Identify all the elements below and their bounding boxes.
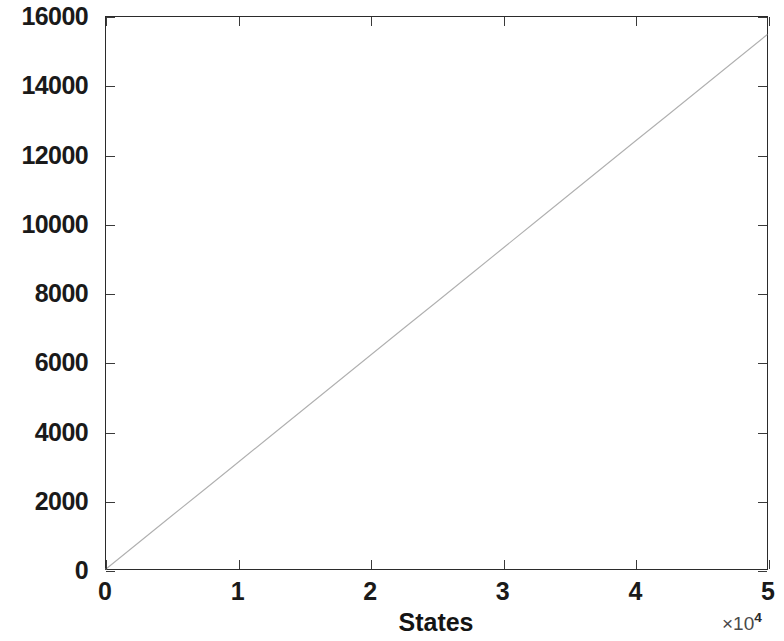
x-tick-mark xyxy=(769,560,770,569)
y-tick-label: 16000 xyxy=(21,2,88,31)
x-tick-label: 0 xyxy=(98,577,112,606)
y-tick-label: 12000 xyxy=(21,140,88,169)
y-tick-mark xyxy=(106,294,115,295)
y-tick-label: 8000 xyxy=(35,279,88,308)
y-tick-label: 14000 xyxy=(21,71,88,100)
x-tick-label: 5 xyxy=(761,577,775,606)
y-tick-mark xyxy=(106,17,115,18)
y-tick-mark xyxy=(106,502,115,503)
x-tick-mark-mirror xyxy=(106,17,107,26)
y-tick-label: 6000 xyxy=(35,348,88,377)
x-axis-exponent-label: ×104 xyxy=(722,610,762,636)
x-tick-mark-mirror xyxy=(239,17,240,26)
y-tick-mark-mirror xyxy=(758,502,767,503)
y-tick-label: 4000 xyxy=(35,417,88,446)
x-tick-mark-mirror xyxy=(636,17,637,26)
y-tick-mark-mirror xyxy=(758,571,767,572)
x-axis-title: States xyxy=(398,608,473,637)
y-tick-mark xyxy=(106,571,115,572)
x-tick-label: 2 xyxy=(363,577,377,606)
series-line-accepted-candidates xyxy=(106,35,767,569)
y-tick-mark-mirror xyxy=(758,156,767,157)
y-tick-mark xyxy=(106,363,115,364)
y-tick-label: 0 xyxy=(75,556,88,585)
figure-canvas: 0200040006000800010000120001400016000 Ac… xyxy=(0,0,784,641)
x-tick-label: 4 xyxy=(628,577,642,606)
x-tick-mark xyxy=(239,560,240,569)
x-tick-label: 3 xyxy=(496,577,510,606)
data-line-svg xyxy=(106,17,767,569)
y-tick-mark xyxy=(106,433,115,434)
y-tick-mark xyxy=(106,225,115,226)
x-tick-mark xyxy=(106,560,107,569)
x-tick-mark xyxy=(504,560,505,569)
y-tick-mark-mirror xyxy=(758,363,767,364)
x-axis-exponent-mult: ×10 xyxy=(722,613,754,634)
x-tick-mark xyxy=(636,560,637,569)
y-tick-mark xyxy=(106,86,115,87)
x-tick-mark-mirror xyxy=(769,17,770,26)
x-axis-exponent-power: 4 xyxy=(754,610,762,625)
y-tick-mark-mirror xyxy=(758,17,767,18)
y-tick-mark-mirror xyxy=(758,294,767,295)
y-tick-label-group: 0200040006000800010000120001400016000 xyxy=(0,0,96,641)
x-tick-mark-mirror xyxy=(371,17,372,26)
plot-area xyxy=(105,16,768,570)
y-tick-label: 2000 xyxy=(35,486,88,515)
y-tick-mark-mirror xyxy=(758,433,767,434)
x-tick-label: 1 xyxy=(231,577,245,606)
y-tick-mark xyxy=(106,156,115,157)
x-tick-mark xyxy=(371,560,372,569)
y-tick-mark-mirror xyxy=(758,86,767,87)
x-tick-mark-mirror xyxy=(504,17,505,26)
y-tick-label: 10000 xyxy=(21,209,88,238)
y-tick-mark-mirror xyxy=(758,225,767,226)
